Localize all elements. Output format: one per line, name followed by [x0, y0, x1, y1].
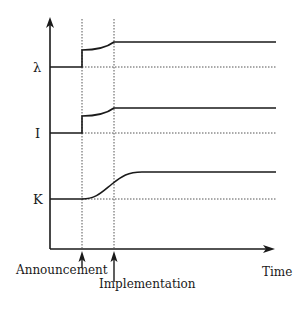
- capital-label: K: [33, 193, 43, 206]
- implementation-label: Implementation: [99, 278, 196, 290]
- diagram-canvas: λ I K Announcement Implementation Time: [0, 0, 307, 309]
- x-axis-label: Time: [262, 266, 292, 278]
- lambda-label: λ: [33, 61, 41, 74]
- investment-path: [50, 108, 276, 133]
- announcement-label: Announcement: [16, 264, 108, 276]
- lambda-path: [50, 42, 276, 67]
- capital-path: [50, 172, 276, 199]
- investment-label: I: [35, 127, 40, 140]
